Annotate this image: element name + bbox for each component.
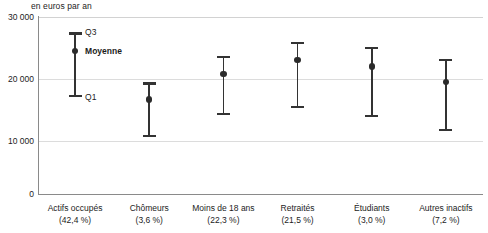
y-tick-label-10000: 10 000 <box>8 136 34 146</box>
plot-area <box>38 17 483 194</box>
category-name: Actifs occupés <box>48 203 103 213</box>
q1-cap <box>291 106 304 108</box>
whisker-line <box>445 59 447 132</box>
y-axis-tick-labels: 30 000 20 000 10 000 0 <box>0 0 34 233</box>
mean-marker <box>369 63 375 69</box>
q1-cap <box>439 129 452 131</box>
q3-cap <box>69 32 82 34</box>
error-bar <box>357 47 387 118</box>
y-tick-label-0: 0 <box>29 189 34 199</box>
mean-marker <box>294 57 300 63</box>
annotation-q3: Q3 <box>85 27 96 37</box>
q3-cap <box>143 82 156 84</box>
category-share: (7,2 %) <box>392 215 488 227</box>
category-name: Chômeurs <box>130 203 169 213</box>
unit-caption: en euros par an <box>31 1 92 11</box>
category-name: Étudiants <box>354 203 389 213</box>
errorbar-chart: en euros par an 30 000 20 000 10 000 0 Q… <box>0 0 488 233</box>
whisker-line <box>148 82 150 137</box>
q1-cap <box>365 115 378 117</box>
error-bar <box>134 82 164 137</box>
mean-marker <box>72 48 78 54</box>
error-bar <box>60 32 90 97</box>
q3-cap <box>439 59 452 61</box>
q1-cap <box>69 95 82 97</box>
whisker-line <box>297 42 299 109</box>
mean-marker <box>220 71 226 77</box>
whisker-line <box>371 47 373 118</box>
error-bar <box>208 56 238 115</box>
q1-cap <box>143 135 156 137</box>
x-axis-line <box>38 194 483 195</box>
annotation-q1: Q1 <box>85 92 96 102</box>
error-bar <box>283 42 313 109</box>
q1-cap <box>217 113 230 115</box>
whisker-line <box>74 32 76 97</box>
whisker-line <box>223 56 225 115</box>
mean-marker <box>443 79 449 85</box>
y-tick-label-30000: 30 000 <box>8 12 34 22</box>
mean-marker <box>146 96 152 102</box>
annotation-moyenne: Moyenne <box>85 46 122 56</box>
category-label: Autres inactifs(7,2 %) <box>392 203 488 226</box>
y-tick-label-20000: 20 000 <box>8 74 34 84</box>
q3-cap <box>217 56 230 58</box>
category-name: Autres inactifs <box>419 203 472 213</box>
error-bar <box>431 59 461 132</box>
q3-cap <box>291 42 304 44</box>
category-name: Retraités <box>281 203 315 213</box>
q3-cap <box>365 47 378 49</box>
